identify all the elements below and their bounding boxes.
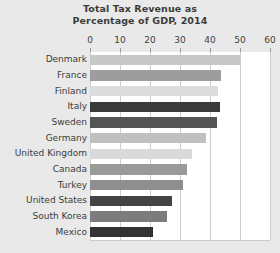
category-label-germany: Germany	[1, 133, 87, 143]
bar-row	[90, 83, 270, 99]
bar-france	[90, 70, 221, 81]
category-label-sweden: Sweden	[1, 117, 87, 127]
category-label-finland: Finland	[1, 86, 87, 96]
bar-canada	[90, 164, 187, 175]
chart-title-line-1: Total Tax Revenue as	[0, 3, 280, 15]
x-axis-baseline	[90, 240, 270, 241]
bar-italy	[90, 102, 220, 113]
category-label-canada: Canada	[1, 164, 87, 174]
bar-row	[90, 162, 270, 178]
x-tick-label-50: 50	[228, 35, 252, 45]
category-label-italy: Italy	[1, 101, 87, 111]
category-label-denmark: Denmark	[1, 54, 87, 64]
bar-united-states	[90, 196, 172, 207]
tick-mark-60	[270, 48, 271, 52]
category-label-south-korea: South Korea	[1, 211, 87, 221]
bar-germany	[90, 133, 206, 144]
bar-united-kingdom	[90, 149, 192, 160]
category-label-mexico: Mexico	[1, 227, 87, 237]
bar-row	[90, 177, 270, 193]
category-label-turkey: Turkey	[1, 180, 87, 190]
gridline-60	[270, 52, 271, 240]
x-tick-label-60: 60	[258, 35, 280, 45]
bar-south-korea	[90, 211, 167, 222]
chart-title-line-2: Percentage of GDP, 2014	[0, 15, 280, 27]
bar-sweden	[90, 117, 217, 128]
bar-row	[90, 99, 270, 115]
bar-chart: Total Tax Revenue as Percentage of GDP, …	[0, 0, 280, 253]
bar-row	[90, 224, 270, 240]
category-label-france: France	[1, 70, 87, 80]
x-tick-label-40: 40	[198, 35, 222, 45]
bar-row	[90, 209, 270, 225]
x-tick-label-30: 30	[168, 35, 192, 45]
bar-row	[90, 68, 270, 84]
bar-mexico	[90, 227, 153, 238]
chart-title: Total Tax Revenue as Percentage of GDP, …	[0, 3, 280, 27]
category-label-united-kingdom: United Kingdom	[1, 148, 87, 158]
bar-row	[90, 146, 270, 162]
x-tick-label-20: 20	[138, 35, 162, 45]
bar-row	[90, 52, 270, 68]
bar-row	[90, 115, 270, 131]
bar-turkey	[90, 180, 183, 191]
bar-row	[90, 193, 270, 209]
x-tick-label-10: 10	[108, 35, 132, 45]
bar-finland	[90, 86, 218, 97]
category-label-united-states: United States	[1, 195, 87, 205]
bar-denmark	[90, 55, 240, 66]
plot-area: 0102030405060	[90, 52, 280, 240]
bar-row	[90, 130, 270, 146]
x-tick-label-0: 0	[78, 35, 102, 45]
